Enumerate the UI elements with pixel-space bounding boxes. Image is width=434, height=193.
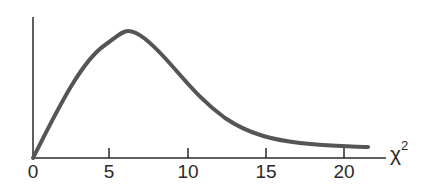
x-tick-label-0: 0 (28, 162, 39, 181)
x-axis-label-exponent: 2 (401, 138, 408, 153)
x-tick-label-15: 15 (255, 162, 276, 181)
x-tick-label-5: 5 (104, 162, 115, 181)
x-axis-label-base: χ (390, 142, 401, 165)
x-tick-label-20: 20 (333, 162, 354, 181)
density-curve (33, 31, 368, 158)
x-ticks (109, 148, 344, 158)
x-tick-label-10: 10 (177, 162, 198, 181)
chi-square-plot (0, 0, 434, 193)
x-axis-label: χ2 (390, 142, 408, 164)
